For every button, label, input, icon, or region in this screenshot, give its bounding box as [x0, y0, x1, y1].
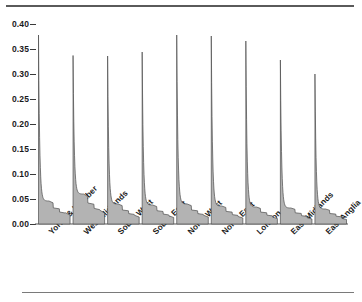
density-panel — [246, 41, 278, 224]
density-panel — [73, 56, 105, 225]
density-panel — [211, 36, 243, 224]
density-panel — [142, 52, 174, 224]
density-panel — [177, 35, 209, 224]
density-panel — [280, 60, 312, 224]
density-panel — [108, 56, 140, 224]
density-panel — [315, 74, 347, 224]
density-panel — [39, 35, 71, 224]
